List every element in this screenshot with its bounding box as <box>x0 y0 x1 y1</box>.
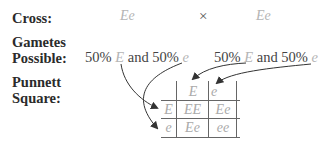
row-header-e: e <box>161 120 176 136</box>
row-header-E: E <box>161 102 176 118</box>
cell-Ee-bottom: Ee <box>177 120 208 136</box>
arrow-parent1-E <box>121 64 157 108</box>
arrow-parent2-e <box>217 64 311 83</box>
cell-ee: ee <box>209 120 237 136</box>
col-header-E: E <box>178 84 208 100</box>
col-header-e: e <box>209 84 238 100</box>
cell-Ee-top: Ee <box>209 102 237 118</box>
arrow-parent2-E <box>193 63 246 79</box>
cell-EE: EE <box>177 102 208 118</box>
